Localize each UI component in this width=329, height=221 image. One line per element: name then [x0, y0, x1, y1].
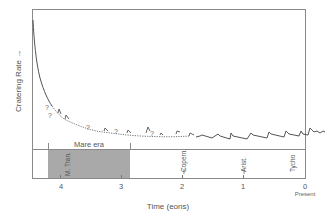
uncertainty-mark: ? — [48, 112, 52, 119]
event-marker-lines — [184, 169, 244, 174]
event-label-arist: Arist. — [240, 157, 247, 172]
event-label-copern: Copern. — [180, 149, 187, 172]
event-label-m-tran: M. Tran. — [64, 152, 71, 176]
mare-era-shading — [48, 150, 130, 178]
uncertainty-mark: ? — [45, 104, 49, 111]
y-axis-label: Cratering Rate → — [14, 50, 23, 112]
uncertainty-mark: ? — [150, 130, 154, 137]
x-tick-label-1: 1 — [241, 182, 245, 191]
x-tick-label-4: 4 — [59, 182, 63, 191]
present-label: Present — [295, 191, 316, 197]
x-tick-label-3: 3 — [119, 182, 123, 191]
x-tick-label-2: 2 — [180, 182, 184, 191]
cratering-curve-spikes — [58, 109, 194, 136]
cratering-chart — [0, 0, 329, 221]
cratering-curve-dotted — [52, 106, 190, 137]
x-tick-label-0: 0 — [303, 182, 307, 191]
mare-era-label: Mare era — [74, 140, 104, 149]
cratering-curve-early — [33, 20, 52, 106]
uncertainty-mark: ? — [86, 124, 90, 131]
event-label-tycho: Tycho — [289, 155, 296, 172]
x-axis-label: Time (eons) — [147, 202, 189, 211]
uncertainty-mark: ? — [114, 128, 118, 135]
